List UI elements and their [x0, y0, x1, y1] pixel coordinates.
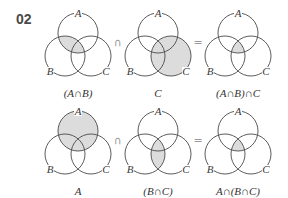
- set-label-b: B: [207, 163, 214, 175]
- diagram-caption: (A∩B): [64, 87, 93, 100]
- venn-diagram-1-1: ABC(A∩B): [45, 7, 111, 100]
- set-label-b: B: [207, 65, 214, 77]
- set-label-a: A: [154, 105, 162, 117]
- set-label-c: C: [102, 65, 110, 77]
- intersection-operator: ∩: [114, 134, 122, 147]
- set-label-c: C: [102, 163, 110, 175]
- intersection-operator: ∩: [114, 36, 122, 49]
- set-label-b: B: [127, 163, 134, 175]
- set-label-a: A: [154, 7, 162, 19]
- diagram-caption: (A∩B)∩C: [216, 87, 261, 100]
- venn-diagram-2-2: ABC(B∩C): [125, 105, 191, 198]
- venn-diagram-2-1: ABCA: [45, 105, 111, 197]
- diagram-caption: A: [74, 185, 82, 197]
- set-label-a: A: [234, 7, 242, 19]
- diagram-caption: C: [154, 87, 162, 99]
- venn-diagram-figure: 02 ABC(A∩B)ABCCABC(A∩B)∩C∩=ABCAABC(B∩C)A…: [0, 0, 288, 198]
- equals-operator: =: [193, 134, 202, 147]
- venn-diagram-1-3: ABC(A∩B)∩C: [205, 7, 271, 100]
- set-label-c: C: [262, 65, 270, 77]
- set-label-c: C: [262, 163, 270, 175]
- diagram-caption: (B∩C): [143, 185, 173, 198]
- venn-diagram-2-3: ABCA∩(B∩C): [205, 105, 271, 198]
- set-label-b: B: [127, 65, 134, 77]
- set-label-a: A: [234, 105, 242, 117]
- set-label-c: C: [182, 65, 190, 77]
- set-label-b: B: [47, 65, 54, 77]
- venn-diagram-1-2: ABCC: [125, 7, 191, 99]
- set-label-a: A: [74, 7, 82, 19]
- set-label-b: B: [47, 163, 54, 175]
- problem-number: 02: [16, 11, 32, 27]
- set-label-a: A: [74, 105, 82, 117]
- set-label-c: C: [182, 163, 190, 175]
- diagram-caption: A∩(B∩C): [215, 185, 260, 198]
- equals-operator: =: [193, 36, 202, 49]
